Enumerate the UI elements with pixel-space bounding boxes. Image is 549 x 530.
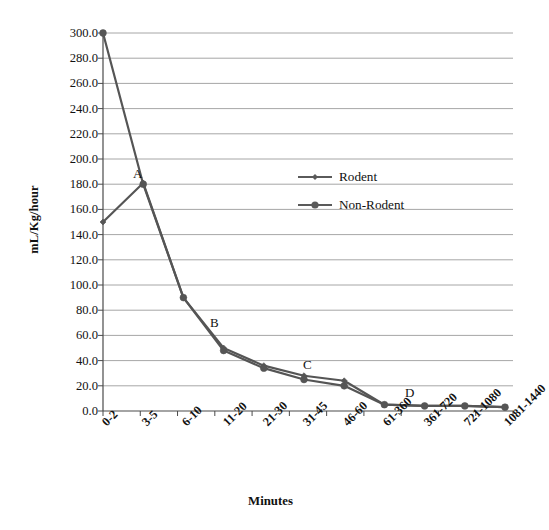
y-tick-label: 140.0 <box>36 227 98 242</box>
legend-label: Rodent <box>334 169 377 185</box>
y-tick-label: 180.0 <box>36 177 98 192</box>
y-tick-label: 260.0 <box>36 76 98 91</box>
legend-marker-circle-icon <box>296 198 334 212</box>
annotation-c: C <box>303 357 312 373</box>
y-tick-label: 220.0 <box>36 126 98 141</box>
data-point <box>502 404 509 411</box>
y-tick-label: 100.0 <box>36 278 98 293</box>
plot-svg <box>103 33 513 411</box>
y-tick-label: 300.0 <box>36 26 98 41</box>
y-tick-label: 280.0 <box>36 51 98 66</box>
data-point <box>341 382 348 389</box>
legend-item: Non-Rodent <box>296 191 446 219</box>
y-tick-label: 40.0 <box>36 353 98 368</box>
chart-legend: RodentNon-Rodent <box>296 163 446 219</box>
data-point <box>100 30 107 37</box>
annotation-d: D <box>405 385 414 401</box>
y-tick-label: 60.0 <box>36 328 98 343</box>
y-tick-label: 240.0 <box>36 101 98 116</box>
data-point <box>220 347 227 354</box>
y-tick-label: 200.0 <box>36 152 98 167</box>
data-point <box>461 403 468 410</box>
legend-marker-diamond-icon <box>296 170 334 184</box>
annotation-b: B <box>210 315 219 331</box>
x-tick-label: 0-2 <box>99 407 121 429</box>
legend-item: Rodent <box>296 163 446 191</box>
data-point <box>260 365 267 372</box>
x-axis-tick-labels: 0-23-56-1011-2021-3031-4546-6061-360361-… <box>0 411 541 501</box>
data-point <box>421 403 428 410</box>
data-point <box>180 294 187 301</box>
data-point <box>301 376 308 383</box>
x-tick-label: 3-5 <box>139 407 161 429</box>
data-point <box>381 401 388 408</box>
y-tick-label: 120.0 <box>36 252 98 267</box>
y-tick-label: 80.0 <box>36 303 98 318</box>
series-line-non-rodent <box>103 33 505 407</box>
legend-label: Non-Rodent <box>334 197 404 213</box>
plot-area <box>103 33 513 411</box>
annotation-a: A <box>133 166 142 182</box>
y-tick-label: 20.0 <box>36 378 98 393</box>
x-axis-title: Minutes <box>0 494 541 509</box>
y-tick-label: 160.0 <box>36 202 98 217</box>
